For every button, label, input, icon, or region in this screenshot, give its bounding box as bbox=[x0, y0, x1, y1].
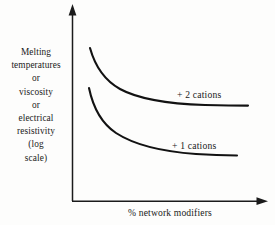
curve-annotation-plus-2-cations: + 2 cations bbox=[177, 89, 221, 100]
text-layer: Melting temperatures or viscosity or ele… bbox=[0, 0, 275, 225]
y-axis-label-line: or bbox=[2, 72, 70, 85]
y-axis-label-line: temperatures bbox=[2, 59, 70, 72]
y-axis-label-line: scale) bbox=[2, 152, 70, 165]
y-axis-label: Melting temperatures or viscosity or ele… bbox=[2, 46, 70, 165]
x-axis-label: % network modifiers bbox=[104, 207, 236, 218]
y-axis-label-line: or bbox=[2, 99, 70, 112]
y-axis-label-line: Melting bbox=[2, 46, 70, 59]
y-axis-label-line: resistivity bbox=[2, 125, 70, 138]
y-axis-label-line: (log bbox=[2, 138, 70, 151]
y-axis-label-line: viscosity bbox=[2, 86, 70, 99]
curve-annotation-plus-1-cations: + 1 cations bbox=[172, 140, 216, 151]
glass-property-figure: Melting temperatures or viscosity or ele… bbox=[0, 0, 275, 225]
y-axis-label-line: electrical bbox=[2, 112, 70, 125]
